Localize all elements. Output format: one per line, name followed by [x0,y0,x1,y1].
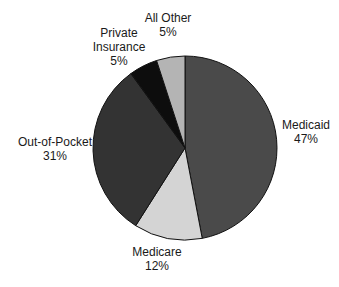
label-all-other-name: All Other [145,11,192,25]
label-medicare-pct: 12% [132,259,181,273]
label-out-of-pocket-name: Out-of-Pocket [18,135,92,149]
label-private-insurance-name2: Insurance [93,40,146,54]
label-private-insurance-name1: Private [93,26,146,40]
label-out-of-pocket: Out-of-Pocket 31% [18,135,92,163]
label-all-other-pct: 5% [145,25,192,39]
pie-slice-medicaid [185,56,277,238]
pie-slices [93,56,277,240]
label-medicaid-name: Medicaid [282,118,330,132]
label-private-insurance-pct: 5% [93,54,146,68]
label-all-other: All Other 5% [145,11,192,39]
label-medicare-name: Medicare [132,245,181,259]
label-out-of-pocket-pct: 31% [18,149,92,163]
label-private-insurance: Private Insurance 5% [93,26,146,68]
label-medicaid-pct: 47% [282,132,330,146]
label-medicare: Medicare 12% [132,245,181,273]
label-medicaid: Medicaid 47% [282,118,330,146]
